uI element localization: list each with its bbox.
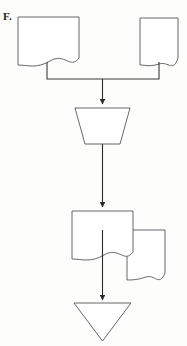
trapezoid-shape-manual-operation: [75, 108, 130, 144]
figure-canvas: F.: [0, 0, 187, 346]
document-shape-top-left: [18, 17, 79, 66]
flowchart-diagram: [0, 0, 187, 346]
document-shape-top-right: [140, 18, 178, 66]
triangle-shape-merge: [74, 303, 131, 341]
